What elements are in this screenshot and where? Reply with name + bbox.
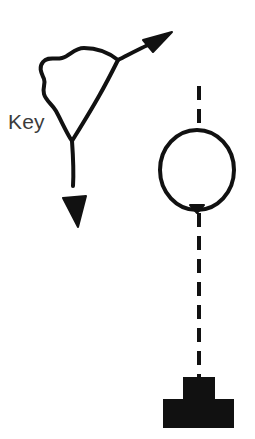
base-plinth [163, 399, 234, 428]
motion-arrow-up-right-shaft [118, 45, 148, 60]
motion-arrow-down-head [63, 196, 86, 227]
base-post [183, 377, 215, 399]
figure-svg: Key [0, 0, 255, 439]
key-outline-loop [41, 48, 118, 141]
key-label: Key [8, 110, 45, 133]
pendulum-ring [160, 130, 234, 210]
motion-arrow-down-shaft [72, 141, 73, 186]
diagram-canvas: Key [0, 0, 255, 439]
motion-arrow-up-right-head [143, 32, 172, 52]
